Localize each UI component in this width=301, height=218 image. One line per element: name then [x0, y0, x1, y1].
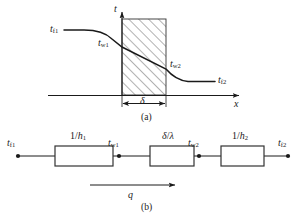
heat-transfer-figure: [0, 0, 301, 218]
label-tw1-circuit: tw1: [108, 138, 119, 149]
axis-label-x: x: [234, 99, 238, 109]
resistor-box-convection-1: [55, 146, 113, 166]
node-dot-tf2: [286, 154, 290, 158]
resistor-label-convection-1-sub: 1: [83, 134, 86, 141]
label-tf2-circuit-sub: f2: [281, 141, 287, 148]
resistor-label-convection-1: 1/h1: [70, 131, 86, 142]
label-tf2-profile-sub: f2: [221, 78, 227, 85]
label-tf2-profile: tf2: [218, 75, 226, 86]
node-dot-tw2: [197, 154, 201, 158]
label-tw1-profile-sub: w1: [101, 41, 109, 48]
label-tf1-profile: tf1: [50, 24, 58, 35]
caption-b: (b): [141, 203, 152, 213]
caption-a: (a): [141, 113, 152, 123]
label-tw2-circuit-sub: w2: [191, 141, 199, 148]
label-tw1-profile: tw1: [98, 38, 109, 49]
node-dot-tw1: [117, 154, 121, 158]
node-dot-tf1: [16, 154, 20, 158]
label-heat-flux-q: q: [128, 190, 133, 200]
resistor-label-conduction: δ/λ: [162, 131, 174, 141]
resistor-box-convection-2: [221, 146, 264, 166]
label-delta: δ: [140, 96, 145, 106]
label-tw2-profile-sub: w2: [173, 62, 181, 69]
label-tw2-circuit: tw2: [188, 138, 199, 149]
resistor-label-convection-2-sub: 2: [245, 134, 248, 141]
label-tf1-circuit-sub: f1: [10, 141, 16, 148]
resistor-label-convection-2: 1/h2: [232, 131, 248, 142]
resistor-box-conduction: [150, 146, 194, 166]
label-tf1-profile-sub: f1: [53, 27, 59, 34]
label-tf1-circuit: tf1: [7, 138, 15, 149]
label-tf2-circuit: tf2: [278, 138, 286, 149]
axis-label-t: t: [114, 4, 117, 14]
wall-slab: [122, 19, 166, 95]
label-tw2-profile: tw2: [170, 59, 181, 70]
label-tw1-circuit-sub: w1: [111, 141, 119, 148]
